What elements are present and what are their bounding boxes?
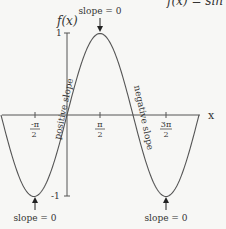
annotation-slope-top: slope = 0 <box>79 6 122 16</box>
annotation-positive-slope: positive slope <box>52 77 75 140</box>
svg-text:2: 2 <box>163 130 168 139</box>
arrow-up-icon <box>163 197 169 210</box>
x-axis-label: x <box>208 109 215 122</box>
x-tick-label-3pi-half: 3π 2 <box>160 120 172 139</box>
sine-chart: f(x) = sin x 1 -1 f(x) x -π 2 π 2 3π 2 s… <box>0 0 226 229</box>
annotation-slope-right: slope = 0 <box>145 213 188 223</box>
chart-title: f(x) = sin x <box>166 0 226 8</box>
x-tick-label-neg-pi-half: -π 2 <box>30 120 40 139</box>
svg-text:2: 2 <box>31 130 36 139</box>
y-tick-label-1: 1 <box>56 28 62 38</box>
y-tick-label-neg1: -1 <box>51 191 60 201</box>
svg-text:2: 2 <box>97 130 102 139</box>
svg-text:-π: -π <box>31 120 39 129</box>
svg-text:3π: 3π <box>161 120 171 129</box>
annotation-negative-slope: negative slope <box>132 84 156 151</box>
x-tick-label-pi-half: π 2 <box>95 120 105 139</box>
annotation-slope-left: slope = 0 <box>14 213 57 223</box>
svg-text:π: π <box>97 120 102 129</box>
arrow-up-icon <box>32 197 38 210</box>
arrow-down-icon <box>97 18 103 32</box>
y-axis-label: f(x) <box>56 14 78 28</box>
